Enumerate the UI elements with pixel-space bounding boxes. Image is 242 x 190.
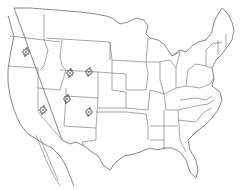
- flower-cluster-icon: [63, 94, 71, 104]
- flower-cluster-icon: [66, 68, 74, 78]
- us-outline: [8, 8, 234, 186]
- state-borders: [8, 14, 226, 152]
- flower-cluster-icon: [85, 67, 93, 77]
- flower-cluster-icon: [39, 105, 47, 115]
- baja-outline: [36, 135, 60, 186]
- us-map: [0, 0, 242, 190]
- markers-layer: [22, 47, 93, 117]
- flower-cluster-icon: [85, 107, 93, 117]
